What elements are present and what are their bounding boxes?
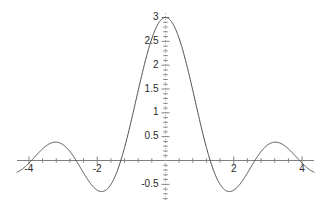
y-tick-label: 2 (153, 60, 159, 70)
x-tick-label: -4 (17, 164, 41, 174)
y-tick-label: 1 (153, 107, 159, 117)
x-tick-label: 4 (290, 164, 314, 174)
plot-graphics (0, 0, 322, 208)
y-axis-tick-marks (162, 18, 170, 199)
y-tick-label: 2.5 (145, 36, 159, 46)
y-tick-label: 0.5 (145, 131, 159, 141)
y-tick-label: 3 (153, 12, 159, 22)
x-tick-label: -2 (85, 164, 109, 174)
plot-canvas: 32.521.510.5-0.5 -4-224 (0, 0, 322, 208)
y-tick-label: -0.5 (141, 179, 158, 189)
y-tick-label: 1.5 (145, 84, 159, 94)
x-tick-label: 2 (222, 164, 246, 174)
